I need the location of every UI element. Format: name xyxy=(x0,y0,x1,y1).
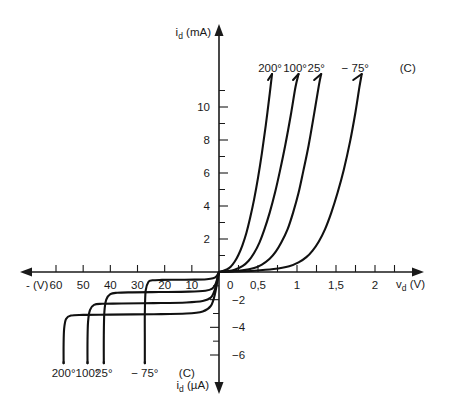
y-axis-bottom-title: id (µA) xyxy=(177,379,210,394)
y-neg-tick-label: −4 xyxy=(232,321,246,333)
top-series-label: 100° xyxy=(283,62,307,74)
bottom-series-label: − 75° xyxy=(131,367,158,379)
bottom-series-label: 25° xyxy=(95,367,112,379)
y-axis-bottom-arrowhead xyxy=(215,382,224,394)
axes-group xyxy=(20,24,424,394)
x-axis-left-title: - (V) xyxy=(26,279,49,291)
x-axis-right-title: vd (V) xyxy=(396,278,425,293)
y-pos-tick-label: 6 xyxy=(204,167,210,179)
x-neg-tick-label: 40 xyxy=(104,279,117,291)
forward-curve xyxy=(219,74,321,272)
diode-iv-characteristic-figure: 00,511,52605040302010246810−2−4−6 200°10… xyxy=(0,0,450,420)
y-pos-tick-label: 4 xyxy=(204,200,211,212)
y-axis-top-arrowhead xyxy=(215,24,224,36)
top-series-label: 200° xyxy=(258,62,282,74)
y-axis-top-title: id (mA) xyxy=(176,26,212,41)
y-pos-tick-label: 2 xyxy=(204,233,210,245)
bottom-unit-label: (C) xyxy=(179,367,195,379)
x-pos-tick-label: 0,5 xyxy=(250,279,266,291)
bottom-series-label: 200° xyxy=(52,367,76,379)
x-neg-tick-label: 60 xyxy=(50,279,63,291)
iv-curve-plot: 00,511,52605040302010246810−2−4−6 200°10… xyxy=(0,0,450,420)
y-neg-tick-label: −2 xyxy=(232,294,245,306)
y-neg-tick-label: −6 xyxy=(232,349,245,361)
y-pos-tick-label: 8 xyxy=(204,134,210,146)
diode-curves-layer xyxy=(64,74,362,363)
top-series-label: 25° xyxy=(307,62,324,74)
x-neg-tick-label: 50 xyxy=(77,279,90,291)
x-pos-tick-label: 1,5 xyxy=(328,279,344,291)
reverse-breakdown-curve xyxy=(145,272,219,363)
top-series-label: − 75° xyxy=(342,62,369,74)
forward-curve xyxy=(219,74,362,272)
top-unit-label: (C) xyxy=(400,62,416,74)
x-tick-label-zero: 0 xyxy=(227,279,233,291)
x-neg-tick-label: 30 xyxy=(131,279,144,291)
axis-tick-labels-layer: 00,511,52605040302010246810−2−4−6 xyxy=(50,101,379,361)
x-pos-tick-label: 1 xyxy=(294,279,300,291)
x-axis-right-arrowhead xyxy=(412,268,424,277)
axis-titles-group: id (mA) id (µA) vd (V) - (V) xyxy=(26,26,425,394)
x-axis-left-arrowhead xyxy=(20,268,32,277)
x-pos-tick-label: 2 xyxy=(372,279,378,291)
x-neg-tick-label: 10 xyxy=(185,279,198,291)
y-pos-tick-label: 10 xyxy=(197,101,210,113)
